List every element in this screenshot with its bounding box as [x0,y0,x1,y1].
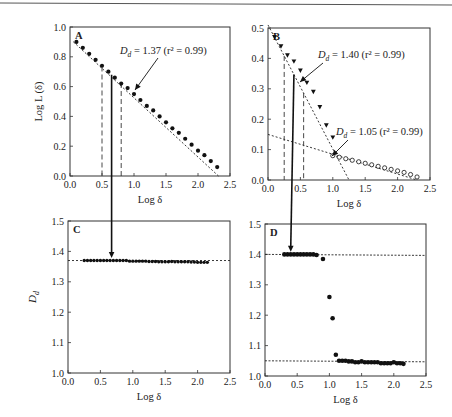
y-tick-label: 1.4 [52,246,65,257]
x-tick-label: 0.5 [294,183,307,194]
y-tick-label: 1.5 [52,216,65,227]
x-tick-label: 1.0 [127,376,140,387]
data-point [144,259,147,262]
y-tick-label: 1.1 [52,337,65,348]
x-tick-label: 1.5 [159,376,172,387]
data-point-open [370,163,374,167]
data-point [125,259,128,262]
data-point [158,114,162,118]
y-tick-label: 0.3 [252,83,265,94]
data-point [102,259,105,262]
connector-line-b-d [291,75,294,247]
data-point [74,40,78,44]
data-point [154,260,157,263]
y-axis-label: Dd [26,290,41,304]
x-tick-label: 1.5 [359,183,372,194]
panel-c: 0.00.51.01.52.02.51.01.11.21.31.41.5Log … [26,216,236,403]
data-point [86,259,89,262]
data-point [189,260,192,263]
data-point [167,260,170,263]
data-point-triangle [304,81,309,85]
data-point [132,92,136,96]
data-point [334,352,339,357]
data-point [327,295,332,300]
data-point [173,260,176,263]
x-tick-label: 2.0 [192,179,205,190]
data-point [330,316,335,321]
y-tick-label: 1.0 [52,368,65,379]
y-tick-label: 0.1 [252,144,265,155]
data-point [134,259,137,262]
panel-letter: C [73,224,81,235]
fit-line [268,134,417,180]
y-tick-label: 0.0 [54,171,67,182]
data-point [176,260,179,263]
y-tick-label: 0.5 [252,23,265,34]
y-tick-label: 1.3 [52,276,65,287]
y-tick-label: 1.0 [249,371,262,382]
data-point [180,260,183,263]
x-tick-label: 0.5 [291,379,304,390]
x-axis-label: Log δ [138,194,163,205]
data-point [138,259,141,262]
x-tick-label: 2.5 [424,183,437,194]
data-point-open [357,160,361,164]
data-point [92,259,95,262]
data-point [99,259,102,262]
data-point [196,149,200,153]
data-point [94,58,98,62]
data-point-open [376,164,380,168]
data-point [83,259,86,262]
data-point [157,260,160,263]
x-tick-label: 1.0 [128,179,141,190]
x-tick-label: 1.0 [323,379,336,390]
data-point [314,253,319,258]
data-point [112,259,115,262]
connector-arrows [109,75,294,258]
data-point-open [344,157,348,161]
x-axis-label: Log δ [333,394,358,405]
data-point-triangle [311,90,316,94]
data-point [206,261,209,264]
data-point [138,98,142,102]
data-point [95,259,98,262]
data-point-triangle [292,59,297,63]
x-tick-label: 2.0 [391,183,404,194]
connector-arrowhead-d [288,246,294,252]
panel-b: 0.00.51.01.52.02.50.00.10.20.30.40.5Log … [252,23,437,210]
annotation-arrowhead [135,83,141,90]
x-tick-label: 1.5 [355,379,368,390]
data-point [145,104,149,108]
x-tick-label: 2.0 [388,379,401,390]
data-point [121,259,124,262]
data-point [147,260,150,263]
data-point-triangle [330,135,335,139]
data-point [215,165,219,169]
data-point-open [402,170,406,174]
x-tick-label: 2.5 [224,376,237,387]
y-tick-label: 0.8 [54,51,67,62]
data-point-open [396,169,400,173]
plot-frame [68,221,230,373]
data-point [113,76,117,80]
data-point-open [337,155,341,159]
data-point [131,259,134,262]
y-tick-label: 0.4 [54,111,67,122]
x-tick-label: 1.5 [160,179,173,190]
data-point [190,143,194,147]
data-point [183,137,187,141]
data-point [196,261,199,264]
data-point-open [389,167,393,171]
data-point [141,259,144,262]
data-point [164,120,168,124]
data-point [177,131,181,135]
data-point [170,126,174,130]
y-axis-label: Log L (δ) [33,81,45,122]
panel-letter: D [270,227,278,238]
x-tick-label: 2.5 [420,379,433,390]
y-tick-label: 0.6 [54,81,67,92]
y-tick-label: 1.0 [54,22,67,33]
x-axis-label: Log δ [137,391,162,402]
data-point [186,260,189,263]
data-point-open [408,172,412,176]
